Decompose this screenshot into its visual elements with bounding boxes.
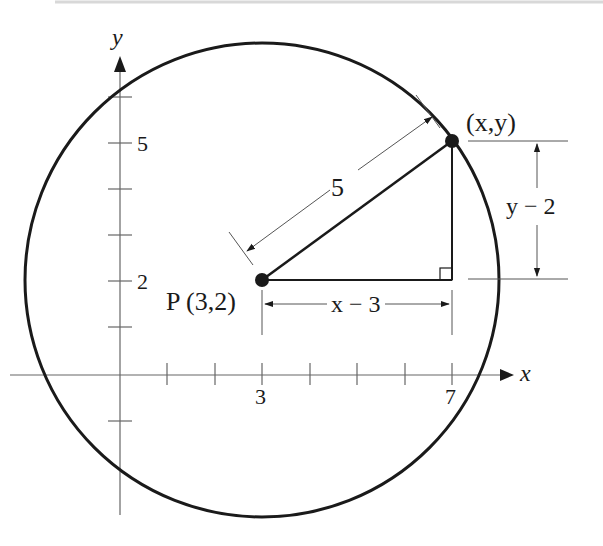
x-tick-label-7: 7: [445, 384, 456, 409]
point-label: (x,y): [466, 108, 516, 137]
diagram-canvas: y x 3 7 5 2 5 P (3,2) (x,y) x − 3 y − 2: [0, 0, 603, 546]
radius-segment: [262, 141, 452, 280]
right-angle-marker: [440, 268, 452, 280]
radius-label: 5: [331, 173, 344, 202]
vertical-leg-label: y − 2: [506, 193, 556, 219]
x-ticks: [167, 363, 452, 385]
y-tick-label-5: 5: [137, 131, 148, 156]
x-axis-arrow-icon: [500, 369, 514, 381]
y-axis: [114, 56, 126, 515]
x-axis-label: x: [519, 360, 531, 386]
horizontal-leg-label: x − 3: [331, 291, 381, 317]
y-axis-label: y: [110, 24, 123, 50]
right-triangle: [262, 141, 452, 280]
center-point-P: [255, 273, 269, 287]
x-tick-label-3: 3: [255, 384, 266, 409]
y-axis-arrow-icon: [114, 56, 126, 72]
y-tick-label-2: 2: [137, 269, 148, 294]
point-xy: [445, 134, 459, 148]
center-label: P (3,2): [166, 287, 236, 316]
